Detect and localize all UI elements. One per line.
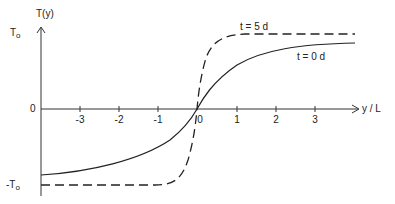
x-tick-label: 0 bbox=[197, 114, 203, 125]
y-label-zero: 0 bbox=[30, 103, 36, 114]
chart-canvas: -3 -2 -1 0 1 2 3 T(y) y / L To 0 -To t =… bbox=[0, 0, 395, 204]
curve-label-t0d: t = 0 d bbox=[297, 51, 325, 62]
x-tick-label: 2 bbox=[273, 114, 279, 125]
y-axis-label: T(y) bbox=[36, 8, 54, 19]
y-label-neg-t0: -To bbox=[6, 179, 20, 192]
x-axis-label: y / L bbox=[362, 103, 381, 114]
x-tick-label: -1 bbox=[154, 114, 163, 125]
curve-label-t5d: t = 5 d bbox=[240, 21, 268, 32]
x-tick-label: -3 bbox=[76, 114, 85, 125]
x-tick-label: -2 bbox=[115, 114, 124, 125]
x-tick-label: 3 bbox=[312, 114, 318, 125]
y-label-t0: To bbox=[10, 27, 21, 40]
x-tick-label: 1 bbox=[234, 114, 240, 125]
